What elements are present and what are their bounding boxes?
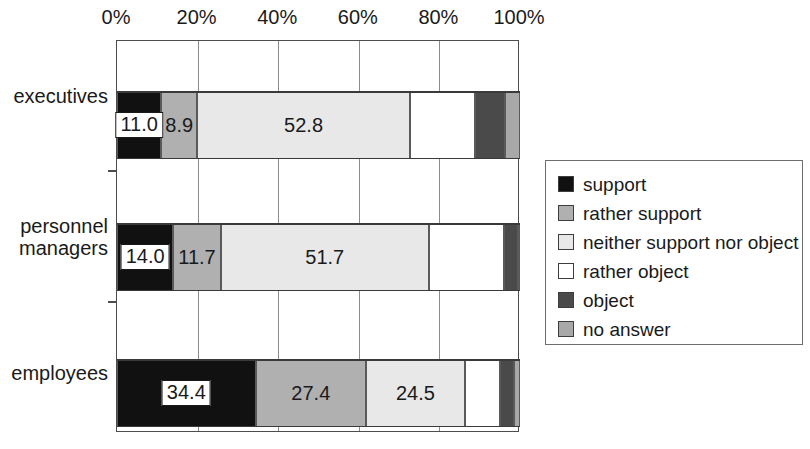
bar-segment [429,223,504,291]
bar-segment [475,91,505,159]
bar-value-label: 11.0 [115,112,162,138]
legend-swatch-icon [558,292,574,308]
category-label-personnel-managers: personnel managers [0,215,108,260]
legend-label: support [583,175,646,194]
x-axis-tick-label: 80% [418,6,458,29]
bar-edge [117,359,520,361]
bar-value-label: 14.0 [121,244,170,270]
stacked-bar-chart: 0%20%40%60%80%100% executives personnel … [0,0,810,449]
legend-label: neither support nor object [583,233,798,252]
legend-label: no answer [583,320,671,339]
legend-swatch-icon [558,176,574,192]
legend-swatch-icon [558,321,574,337]
bar-segment [410,91,475,159]
bar-edge [117,223,520,225]
x-axis-tick-label: 100% [493,6,544,29]
legend-items: supportrather supportneither support nor… [558,170,802,343]
bar-segment [505,91,520,159]
legend-label: rather support [583,204,701,223]
x-axis-tick-label: 20% [177,6,217,29]
legend-label: object [583,291,634,310]
legend-swatch-icon [558,205,574,221]
bar-value-label: 51.7 [305,246,344,269]
bar-row: 14.011.751.7 [117,223,520,291]
bar-row: 11.08.952.8 [117,91,520,159]
bar-segment [514,359,520,427]
bar-segment [518,223,520,291]
legend: supportrather supportneither support nor… [545,160,803,345]
legend-item[interactable]: rather support [558,199,802,227]
bar-segment [504,223,519,291]
x-axis-tick-label: 60% [338,6,378,29]
legend-swatch-icon [558,234,574,250]
bar-row: 34.427.424.5 [117,359,520,427]
bar-value-label: 34.4 [162,380,211,406]
bar-value-label: 52.8 [284,114,323,137]
bar-edge [117,290,520,292]
legend-item[interactable]: object [558,286,802,314]
legend-item[interactable]: neither support nor object [558,228,802,256]
legend-item[interactable]: rather object [558,257,802,285]
bar-value-label: 11.7 [178,246,215,269]
y-axis-tick [108,170,116,172]
legend-swatch-icon [558,263,574,279]
bar-edge [117,158,520,160]
x-axis-tick-label: 40% [257,6,297,29]
plot-area: 11.08.952.814.011.751.734.427.424.5 [116,40,519,432]
bar-segment [500,359,514,427]
bar-value-label: 8.9 [165,114,193,137]
x-axis-tick-label: 0% [102,6,131,29]
category-label-executives: executives [0,85,108,107]
bar-edge [117,91,520,93]
legend-item[interactable]: no answer [558,315,802,343]
bar-value-label: 27.4 [291,382,330,405]
category-label-employees: employees [0,362,108,384]
y-axis-tick [108,301,116,303]
bar-segment [465,359,500,427]
bar-value-label: 24.5 [396,382,435,405]
bar-edge [117,426,520,428]
legend-item[interactable]: support [558,170,802,198]
legend-label: rather object [583,262,689,281]
